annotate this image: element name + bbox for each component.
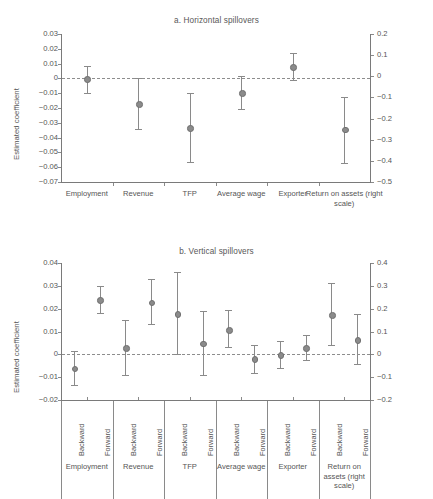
error-bar-cap-lower <box>135 129 142 130</box>
error-bar-cap-upper <box>303 335 310 336</box>
panel-a-right-tick <box>371 55 374 56</box>
error-bar-cap-upper <box>238 76 245 77</box>
error-bar-cap-lower <box>200 375 207 376</box>
error-bar-cap-upper <box>97 286 104 287</box>
panel-b-title: b. Vertical spillovers <box>0 247 433 256</box>
panel-b-group-label: Employment <box>61 462 113 472</box>
panel-a-right-tick-label: 0 <box>377 71 417 80</box>
panel-b-right-tick <box>371 263 374 264</box>
panel-a-left-axis <box>61 34 62 183</box>
error-bar-cap-upper <box>277 341 284 342</box>
data-point-marker <box>329 312 336 319</box>
panel-b-sub-label: Backward <box>335 424 344 456</box>
panel-b-left-tick <box>58 332 61 333</box>
error-bar-cap-upper <box>174 272 181 273</box>
error-bar-cap-lower <box>122 375 129 376</box>
panel-a-title: a. Horizontal spillovers <box>0 16 433 25</box>
panel-b-left-tick <box>58 309 61 310</box>
error-bar-cap-upper <box>328 283 335 284</box>
panel-a-x-tick <box>113 183 114 186</box>
error-bar-cap-lower <box>71 385 78 386</box>
panel-a-right-tick-label: −0.5 <box>377 177 417 186</box>
panel-b-x-tick <box>190 397 191 400</box>
panel-b-group-separator <box>216 401 217 499</box>
panel-a-right-tick <box>371 182 374 183</box>
panel-b-group-separator <box>164 401 165 499</box>
data-point-marker <box>84 76 91 83</box>
panel-a-left-tick-label: 0.01 <box>18 59 58 68</box>
panel-b-sub-label: Backward <box>232 424 241 456</box>
panel-b-x-tick <box>241 397 242 400</box>
error-bar-cap-lower <box>341 163 348 164</box>
panel-a-right-tick-label: 0.1 <box>377 50 417 59</box>
panel-b-sub-label: Backward <box>129 424 138 456</box>
error-bar-cap-upper <box>354 314 361 315</box>
error-bar-cap-upper <box>290 53 297 54</box>
error-bar-cap-upper <box>187 93 194 94</box>
panel-b-left-axis <box>61 263 62 401</box>
panel-b-left-tick-label: 0.04 <box>18 258 58 267</box>
panel-b-group-separator <box>370 401 371 499</box>
panel-a-left-tick <box>58 167 61 168</box>
panel-a-right-tick-label: −0.4 <box>377 156 417 165</box>
error-bar-cap-lower <box>187 162 194 163</box>
panel-b-group-separator <box>113 401 114 499</box>
error-bar-cap-lower <box>97 313 104 314</box>
panel-b-right-tick <box>371 354 374 355</box>
panel-a-left-tick <box>58 34 61 35</box>
panel-a-left-tick <box>58 138 61 139</box>
panel-a-right-tick <box>371 34 374 35</box>
panel-b-zero-line <box>62 354 370 355</box>
panel-b-left-tick <box>58 263 61 264</box>
panel-a-left-tick <box>58 123 61 124</box>
panel-a-left-tick-label: −0.02 <box>18 103 58 112</box>
panel-b-right-tick-label: 0.3 <box>377 281 417 290</box>
panel-b-sub-label: Backward <box>180 424 189 456</box>
panel-b-sub-label: Forward <box>206 429 215 456</box>
panel-b-right-tick <box>371 309 374 310</box>
panel-b-right-tick <box>371 332 374 333</box>
panel-b-group-label: Average wage <box>216 462 268 472</box>
panel-a-x-tick <box>267 183 268 186</box>
error-bar-cap-lower <box>84 93 91 94</box>
panel-b-left-tick-label: −0.02 <box>18 395 58 404</box>
panel-a-right-tick <box>371 119 374 120</box>
data-point-marker <box>278 352 285 359</box>
panel-a-left-tick <box>58 49 61 50</box>
error-bar-cap-upper <box>135 78 142 79</box>
panel-a-left-tick <box>58 152 61 153</box>
panel-vertical-spillovers: b. Vertical spillovers Estimated coeffic… <box>0 243 433 499</box>
panel-a-right-tick-label: 0.2 <box>377 29 417 38</box>
panel-b-group-separator <box>61 401 62 499</box>
panel-b-right-tick <box>371 400 374 401</box>
panel-b-sub-label: Forward <box>258 429 267 456</box>
data-point-marker <box>136 101 143 108</box>
data-point-marker <box>149 300 156 307</box>
panel-a-left-tick-label: −0.06 <box>18 162 58 171</box>
error-bar-cap-upper <box>251 345 258 346</box>
panel-a-left-tick-label: −0.04 <box>18 133 58 142</box>
error-bar-cap-lower <box>238 109 245 110</box>
panel-b-group-separator <box>267 401 268 499</box>
panel-b-sub-label: Forward <box>309 429 318 456</box>
panel-a-left-tick <box>58 64 61 65</box>
panel-a-x-tick <box>216 183 217 186</box>
error-bar-cap-upper <box>225 310 232 311</box>
panel-b-group-label: Revenue <box>113 462 165 472</box>
panel-b-left-tick-label: 0.01 <box>18 327 58 336</box>
panel-a-left-tick <box>58 182 61 183</box>
panel-b-x-tick <box>344 397 345 400</box>
error-bar-cap-lower <box>251 373 258 374</box>
data-point-marker <box>97 297 104 304</box>
error-bar-cap-lower <box>174 354 181 355</box>
panel-b-left-tick-label: 0 <box>18 349 58 358</box>
panel-a-left-tick <box>58 78 61 79</box>
error-bar-cap-lower <box>354 364 361 365</box>
panel-b-left-tick <box>58 377 61 378</box>
error-bar-cap-lower <box>225 347 232 348</box>
data-point-marker <box>226 327 233 334</box>
panel-b-right-tick-label: 0.1 <box>377 327 417 336</box>
panel-b-group-label: Exporter <box>267 462 319 472</box>
panel-a-right-tick <box>371 97 374 98</box>
panel-b-sub-label: Forward <box>361 429 370 456</box>
